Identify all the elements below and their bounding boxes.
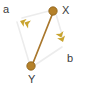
diagram-canvas: X Y a b xyxy=(0,0,85,86)
edge-a-to-y xyxy=(17,22,29,62)
graph-svg xyxy=(0,0,85,86)
arrow-marker-b xyxy=(56,31,67,43)
node-label-y: Y xyxy=(28,74,35,85)
edge-label-a: a xyxy=(3,4,9,15)
node-y[interactable] xyxy=(27,62,35,70)
edge-x-to-a xyxy=(22,11,49,18)
arrow-marker-a xyxy=(19,17,31,28)
node-label-x: X xyxy=(62,5,69,16)
node-x[interactable] xyxy=(49,7,57,15)
edge-group xyxy=(17,11,63,65)
edge-label-b: b xyxy=(67,53,73,64)
